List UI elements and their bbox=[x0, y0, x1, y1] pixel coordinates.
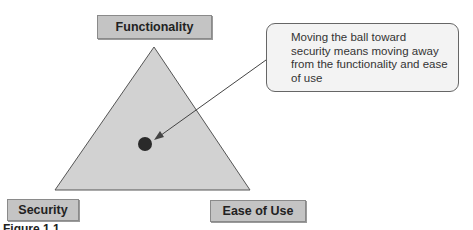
functionality-label: Functionality bbox=[97, 15, 212, 39]
ball-marker bbox=[138, 137, 152, 151]
functionality-label-text: Functionality bbox=[116, 20, 194, 34]
security-label-text: Security bbox=[18, 203, 67, 217]
ease-of-use-label: Ease of Use bbox=[210, 200, 306, 222]
callout-box: Moving the ball toward security means mo… bbox=[266, 23, 459, 92]
tradeoff-triangle bbox=[55, 47, 250, 190]
ease-of-use-label-text: Ease of Use bbox=[223, 204, 294, 218]
security-label: Security bbox=[7, 199, 79, 221]
figure-caption: Figure 1.1 bbox=[3, 222, 60, 230]
callout-text: Moving the ball toward security means mo… bbox=[291, 31, 448, 84]
